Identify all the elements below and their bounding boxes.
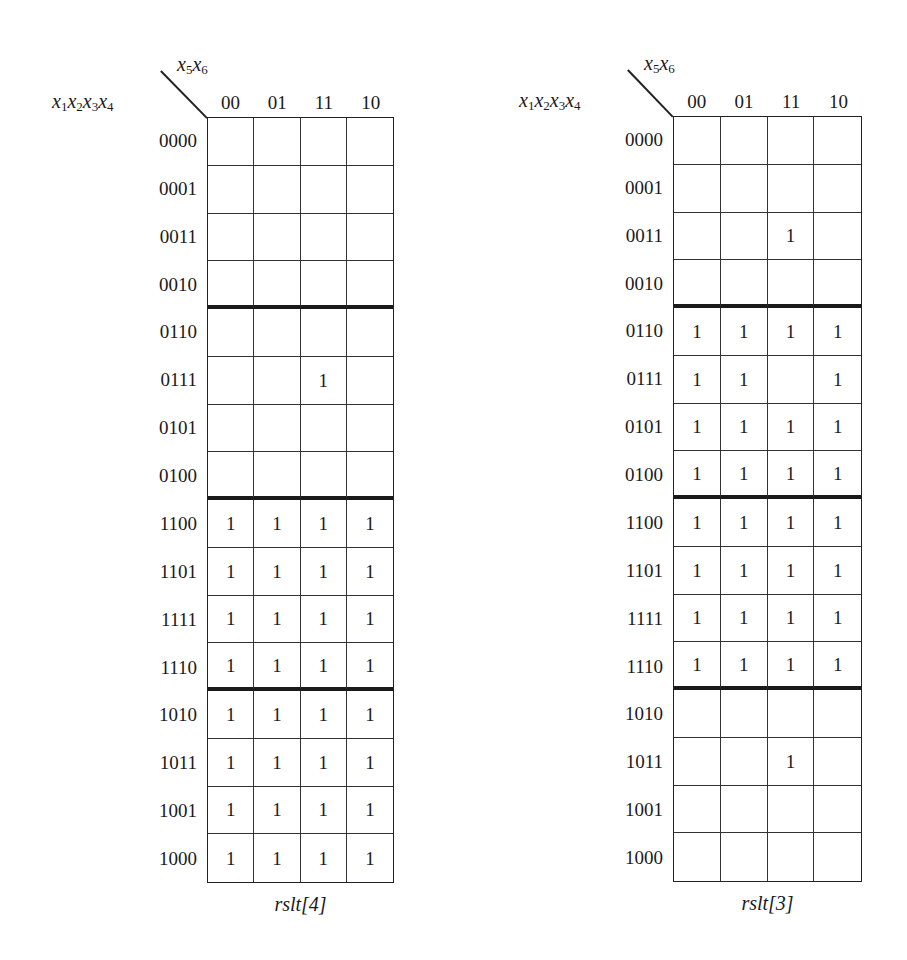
kmap-cell-1011-01: 1 — [254, 739, 300, 787]
kmap-cell-0000-11 — [768, 117, 815, 165]
map-caption: rslt[4] — [206, 893, 396, 916]
row-header-0110: 0110 — [127, 322, 197, 341]
kmap-cell-0011-01 — [721, 213, 768, 261]
row-header-1111: 1111 — [127, 610, 197, 629]
kmap-cell-1000-01 — [721, 833, 768, 881]
kmap-cell-0000-10 — [814, 117, 861, 165]
kmap-cell-0010-00 — [674, 260, 721, 308]
kmap-cell-0101-11: 1 — [768, 404, 815, 452]
kmap-cell-0101-10 — [347, 405, 393, 453]
kmap-cell-0111-10: 1 — [814, 356, 861, 404]
column-header-01: 01 — [720, 92, 767, 111]
kmap-cell-1101-11: 1 — [301, 548, 347, 596]
kmap-cell-1010-01: 1 — [254, 691, 300, 739]
row-header-1110: 1110 — [127, 658, 197, 677]
kmap-cell-0110-01: 1 — [721, 308, 768, 356]
row-header-1011: 1011 — [593, 752, 663, 771]
kmap-cell-0101-00: 1 — [674, 404, 721, 452]
kmap-rslt3: x5x6x1x2x3x40001111000000001001100100110… — [466, 0, 906, 960]
kmap-cell-1111-10: 1 — [814, 595, 861, 643]
kmap-cell-0100-00: 1 — [674, 451, 721, 499]
kmap-cell-1001-01: 1 — [254, 787, 300, 835]
kmap-cell-0001-10 — [347, 166, 393, 214]
var-letter: x — [52, 90, 61, 112]
var-subscript: 6 — [668, 61, 675, 76]
kmap-cell-0010-10 — [347, 261, 393, 309]
kmap-cell-1100-00: 1 — [208, 500, 254, 548]
kmap-cell-1011-11: 1 — [301, 739, 347, 787]
kmap-cell-0010-11 — [768, 260, 815, 308]
kmap-cell-0011-10 — [347, 214, 393, 262]
var-letter: x — [177, 53, 186, 75]
kmap-cell-1001-10 — [814, 786, 861, 834]
kmap-cell-1000-00: 1 — [208, 834, 254, 882]
kmap-cell-0001-11 — [768, 165, 815, 213]
kmap-cell-1110-11: 1 — [768, 642, 815, 690]
column-header-10: 10 — [347, 93, 394, 112]
kmap-cell-1100-11: 1 — [301, 500, 347, 548]
kmap-cell-1011-10 — [814, 738, 861, 786]
column-variables-label: x5x6 — [177, 54, 208, 74]
row-header-0000: 0000 — [593, 130, 663, 149]
kmap-cell-1100-11: 1 — [768, 499, 815, 547]
kmap-cell-1000-01: 1 — [254, 834, 300, 882]
kmap-cell-1010-10: 1 — [347, 691, 393, 739]
kmap-cell-0110-01 — [254, 309, 300, 357]
row-header-0111: 0111 — [593, 369, 663, 388]
kmap-cell-1111-00: 1 — [674, 595, 721, 643]
row-header-0010: 0010 — [127, 275, 197, 294]
column-header-11: 11 — [300, 93, 347, 112]
var-subscript: 4 — [107, 99, 114, 114]
kmap-cell-1001-10: 1 — [347, 787, 393, 835]
kmap-cell-0111-00: 1 — [674, 356, 721, 404]
kmap-cell-0001-01 — [721, 165, 768, 213]
row-header-1101: 1101 — [127, 562, 197, 581]
kmap-cell-0100-10 — [347, 452, 393, 500]
kmap-cell-1011-00 — [674, 738, 721, 786]
kmap-cell-0100-00 — [208, 452, 254, 500]
row-header-0111: 0111 — [127, 370, 197, 389]
kmap-cell-1111-11: 1 — [301, 596, 347, 644]
kmap-cell-0001-00 — [208, 166, 254, 214]
row-header-0100: 0100 — [593, 465, 663, 484]
kmap-cell-0001-01 — [254, 166, 300, 214]
kmap-cell-0000-11 — [301, 118, 347, 166]
kmap-cell-1110-11: 1 — [301, 643, 347, 691]
kmap-cell-1010-00 — [674, 690, 721, 738]
kmap-cell-0011-00 — [208, 214, 254, 262]
row-header-0000: 0000 — [127, 131, 197, 150]
column-header-11: 11 — [768, 92, 815, 111]
kmap-cell-1011-10: 1 — [347, 739, 393, 787]
kmap-cell-1000-10 — [814, 833, 861, 881]
var-letter: x — [519, 89, 528, 111]
kmap-cell-1000-00 — [674, 833, 721, 881]
kmap-cell-0000-00 — [208, 118, 254, 166]
var-letter: x — [550, 89, 559, 111]
kmap-cell-1101-10: 1 — [347, 548, 393, 596]
kmap-cell-0110-11: 1 — [768, 308, 815, 356]
kmap-cell-1001-11: 1 — [301, 787, 347, 835]
kmap-cell-1101-01: 1 — [721, 547, 768, 595]
header-diagonal-divider — [627, 69, 673, 117]
row-header-0011: 0011 — [593, 226, 663, 245]
kmap-cell-0000-10 — [347, 118, 393, 166]
kmap-cell-0111-11: 1 — [301, 357, 347, 405]
kmap-cell-1110-10: 1 — [814, 642, 861, 690]
kmap-cell-0100-11 — [301, 452, 347, 500]
kmap-cell-0010-01 — [254, 261, 300, 309]
kmap-cell-0011-11: 1 — [768, 213, 815, 261]
kmap-cell-1001-00 — [674, 786, 721, 834]
kmap-cell-0000-00 — [674, 117, 721, 165]
kmap-rslt4: x5x6x1x2x3x40001111000000001001100100110… — [0, 0, 440, 960]
kmap-cell-1101-11: 1 — [768, 547, 815, 595]
kmap-cell-1111-10: 1 — [347, 596, 393, 644]
kmap-cell-0000-01 — [254, 118, 300, 166]
var-letter: x — [659, 52, 668, 74]
kmap-cell-0100-01: 1 — [721, 451, 768, 499]
kmap-cell-0101-10: 1 — [814, 404, 861, 452]
kmap-cell-1100-10: 1 — [814, 499, 861, 547]
kmap-cell-0000-01 — [721, 117, 768, 165]
kmap-cell-1111-01: 1 — [254, 596, 300, 644]
var-letter: x — [67, 90, 76, 112]
kmap-cell-0011-00 — [674, 213, 721, 261]
